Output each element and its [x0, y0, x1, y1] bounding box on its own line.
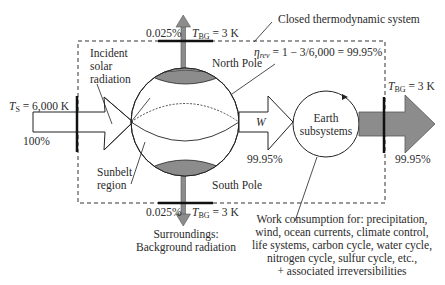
leader-work-consumption	[295, 157, 317, 221]
work-consumption-line: nitrogen cycle, sulfur cycle, etc.,	[267, 252, 417, 265]
incident-label-2: solar	[90, 60, 113, 72]
output-arrow	[359, 95, 435, 153]
south-loss-percent: 0.025%	[146, 206, 182, 218]
leader-closed-system	[254, 22, 272, 42]
surroundings-line2: Background radiation	[136, 241, 236, 254]
north-loss-percent: 0.025%	[146, 27, 182, 39]
north-pole-label: North Pole	[212, 57, 262, 69]
work-percent: 99.95%	[247, 153, 283, 165]
sunbelt-label-2: region	[97, 179, 127, 192]
earth-subsystems-line2: subsystems	[300, 125, 353, 138]
output-temp: TBG = 3 K	[388, 80, 435, 94]
work-symbol: W	[256, 116, 267, 128]
north-temp: TBG = 3 K	[192, 27, 239, 41]
surroundings-line1: Surroundings:	[153, 228, 218, 241]
work-consumption-line: life systems, carbon cycle, water cycle,	[252, 239, 432, 252]
work-consumption-line: + associated irreversibilities	[277, 265, 407, 277]
south-pole-label: South Pole	[212, 179, 262, 191]
output-percent: 99.95%	[395, 153, 431, 165]
work-arrow	[239, 96, 293, 150]
south-loss-arrow-shaft	[181, 176, 186, 216]
source-temp: TS = 6,000 K	[9, 100, 70, 114]
earth-subsystems-circle	[293, 91, 359, 157]
work-consumption-line: Work consumption for: precipitation,	[257, 213, 428, 226]
incident-label-3: radiation	[90, 73, 131, 85]
north-loss-arrow-shaft	[181, 26, 186, 70]
south-temp: TBG = 3 K	[192, 206, 239, 220]
sunbelt-label-1: Sunbelt	[97, 166, 133, 178]
work-consumption-line: wind, ocean currents, climate control,	[255, 226, 429, 239]
incident-label-1: Incident	[90, 47, 128, 59]
earth-subsystems-line1: Earth	[314, 112, 339, 124]
efficiency-formula: ηrev = 1 − 3/6,000 = 99.95%	[254, 46, 383, 60]
source-percent: 100%	[23, 135, 50, 147]
closed-system-label: Closed thermodynamic system	[278, 13, 420, 26]
thermodynamic-diagram: 0.025% TBG = 3 K Closed thermodynamic sy…	[0, 0, 445, 285]
north-loss-arrow-head	[176, 15, 191, 27]
